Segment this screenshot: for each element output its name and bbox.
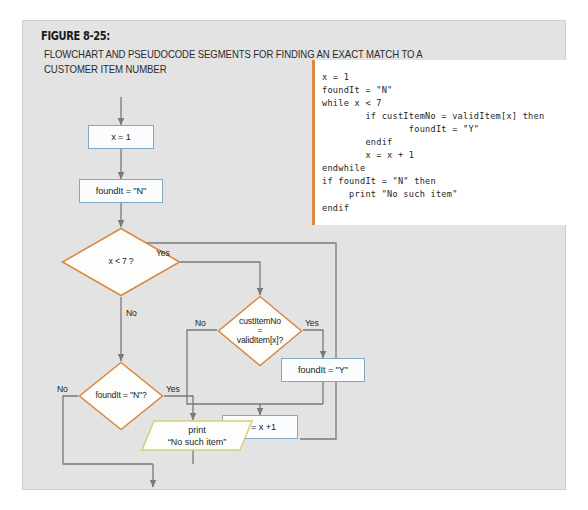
figure-number: FIGURE 8-25: [41,29,110,43]
pseudocode-panel: x = 1 foundIt = "N" while x < 7 if custI… [312,60,566,225]
process-label: foundIt = "Y" [298,365,348,375]
branch-label-yes-x-lt-7: Yes [156,248,170,258]
branch-label-no-x-lt-7: No [126,308,137,318]
pseudocode-text: x = 1 foundIt = "N" while x < 7 if custI… [322,71,562,215]
output-print-no-such-item: print “No such item” [141,420,253,451]
process-label: foundIt = "N" [96,186,146,196]
pseudocode-accent-bar [312,60,315,225]
output-line: print [188,424,206,436]
branch-label-yes-cust-item-match: Yes [305,318,319,328]
decision-x-lt-7: x < 7 ? [61,227,181,297]
decision-cust-item-match: custItemNo = validItem[x]? [217,295,303,367]
branch-label-yes-foundit-is-n: Yes [166,384,180,394]
output-label: print “No such item” [141,420,253,451]
branch-label-no-foundit-is-n: No [57,384,68,394]
process-box-set-foundit-n: foundIt = "N" [79,179,163,203]
process-box-set-x-1: x = 1 [88,125,154,149]
branch-label-no-cust-item-match: No [195,318,206,328]
process-label: x = 1 [111,132,131,142]
figure-panel: FIGURE 8-25:FLOWCHART AND PSEUDOCODE SEG… [22,20,566,490]
output-line: “No such item” [168,436,227,448]
